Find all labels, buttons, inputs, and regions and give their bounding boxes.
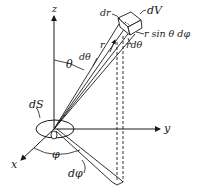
y-axis-label: y [163,122,171,135]
r-arrow [110,40,115,52]
r-sin-theta-dphi-leader [136,32,144,34]
r-sin-theta-dphi-label: r sin θ dφ [144,28,190,39]
floor-projection-strip [56,129,123,185]
dv-leader [140,10,146,14]
dphi-label: dφ [68,167,83,180]
phi-label: φ [52,148,60,161]
dtheta-label: dθ [79,51,91,62]
projection-dashed-lines [117,36,123,182]
r-dtheta-label: rdθ [126,39,143,50]
spherical-volume-element-diagram: z y x dS O r [0,0,200,196]
dv-label: dV [147,4,163,17]
volume-element-box [118,12,142,35]
ds-label: dS [29,98,44,111]
x-axis [21,129,54,160]
theta-label: θ [66,58,73,71]
dtheta-arc [93,58,97,66]
origin-marker [51,131,57,139]
z-axis-label: z [51,3,58,14]
dr-label: dr [100,7,112,18]
r-label: r [100,39,106,50]
x-axis-label: x [11,158,18,171]
